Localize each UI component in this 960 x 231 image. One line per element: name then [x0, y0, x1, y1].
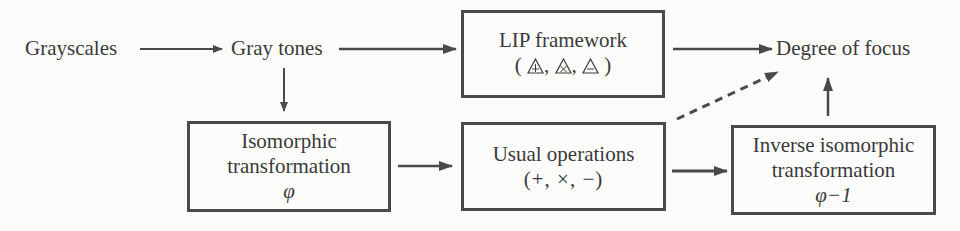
- separator: ,: [544, 53, 549, 77]
- isomorphic-line1: Isomorphic: [241, 129, 337, 154]
- node-gray-tones: Gray tones: [231, 36, 323, 60]
- triangle-times-icon: [555, 55, 572, 80]
- dashed-arrow-usual-ops-to-degree-of-focus: [677, 72, 778, 119]
- phi-inverse-symbol: φ−1: [815, 183, 851, 208]
- node-inverse-isomorphic-transformation: Inverse isomorphic transformation φ−1: [731, 125, 936, 215]
- usual-operators: (+, ×, −): [524, 167, 604, 192]
- node-lip-framework: LIP framework ( , , ): [461, 10, 665, 98]
- triangle-plus-icon: [527, 55, 544, 80]
- close-paren: ): [604, 53, 611, 77]
- phi-symbol: φ: [283, 179, 295, 204]
- node-isomorphic-transformation: Isomorphic transformation φ: [187, 121, 391, 212]
- lip-framework-title: LIP framework: [499, 28, 627, 53]
- usual-operations-title: Usual operations: [493, 142, 635, 167]
- node-usual-operations: Usual operations (+, ×, −): [461, 122, 666, 211]
- open-paren: (: [515, 53, 522, 77]
- inverse-line1: Inverse isomorphic: [753, 133, 915, 158]
- node-degree-of-focus: Degree of focus: [776, 36, 910, 60]
- inverse-line2: transformation: [772, 158, 896, 183]
- isomorphic-line2: transformation: [227, 154, 351, 179]
- triangle-minus-icon: [582, 55, 599, 80]
- node-grayscales: Grayscales: [25, 36, 117, 60]
- separator: ,: [572, 53, 577, 77]
- lip-operators: ( , , ): [515, 53, 612, 80]
